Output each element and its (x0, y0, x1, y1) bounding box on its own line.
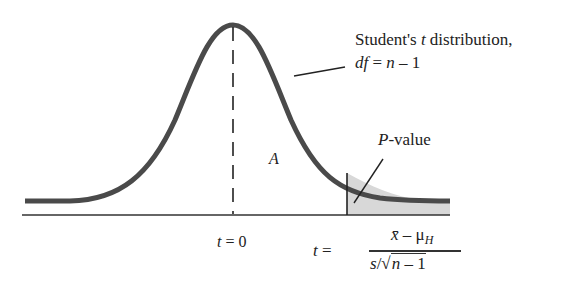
sqrt-icon: √ (381, 254, 390, 273)
formula-mu: μ (416, 225, 425, 244)
formula-denominator: s/√n – 1 (370, 254, 426, 274)
fraction-bar (369, 250, 461, 252)
title-suffix: distribution, (426, 30, 513, 49)
formula-s: s (370, 254, 377, 273)
formula-xbar: x̄ (391, 225, 399, 244)
formula-numerator: x̄ – μH (391, 225, 433, 248)
region-a-label: A (269, 150, 279, 168)
pvalue-var: P (378, 130, 388, 149)
formula-minus: – (399, 225, 416, 244)
formula-lhs: t = (313, 241, 332, 261)
center-t-value: = 0 (221, 233, 246, 250)
df-eq: = (368, 53, 386, 72)
t-distribution-curve (25, 25, 450, 201)
df-tail: – 1 (395, 53, 421, 72)
df-var: df (355, 53, 368, 72)
formula-mu-sub: H (425, 233, 434, 247)
t-distribution-diagram: Student's t distribution, df = n – 1 P-v… (0, 0, 567, 295)
formula-eq: = (318, 241, 332, 260)
formula-radicand: n – 1 (391, 253, 426, 273)
formula-minus-one: – 1 (400, 254, 426, 273)
degrees-of-freedom-label: df = n – 1 (355, 53, 420, 73)
pvalue-suffix: -value (388, 130, 430, 149)
formula-n: n (392, 254, 401, 273)
title-leader-line (294, 67, 345, 76)
title-text: Student's (355, 30, 421, 49)
center-t-label: t = 0 (217, 233, 246, 251)
df-n: n (386, 53, 395, 72)
pvalue-label: P-value (378, 130, 431, 150)
distribution-title: Student's t distribution, (355, 30, 513, 50)
